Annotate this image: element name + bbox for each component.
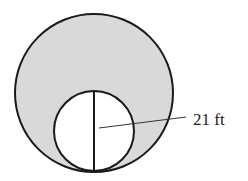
circles-figure: 21 ft bbox=[0, 0, 248, 181]
diameter-label: 21 ft bbox=[193, 110, 225, 129]
diagram-canvas: 21 ft bbox=[0, 0, 248, 181]
